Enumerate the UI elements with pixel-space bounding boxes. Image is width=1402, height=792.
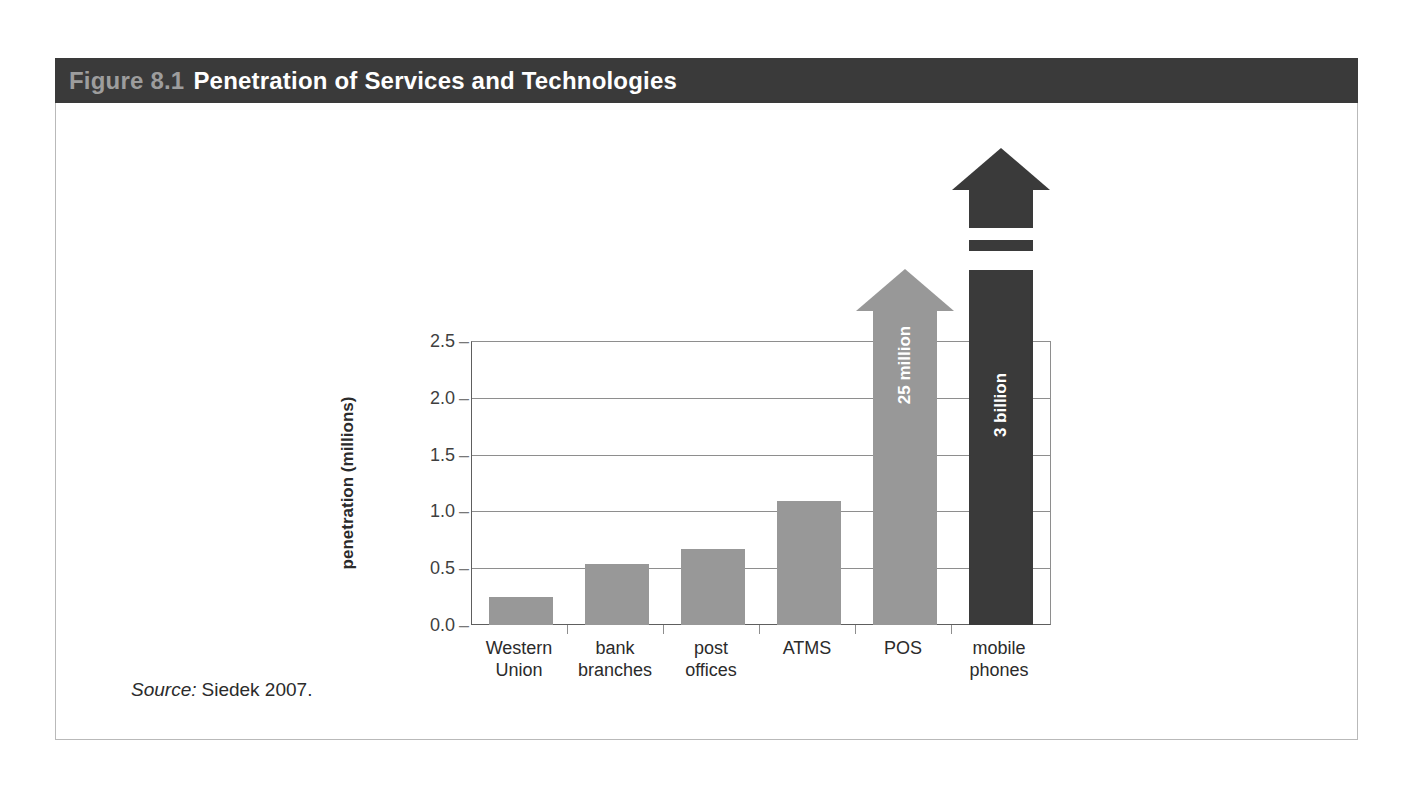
x-tick [759, 625, 760, 634]
arrow-up-icon [952, 148, 1050, 190]
bar-value-label-pos: 25 million [895, 326, 915, 404]
figure-page: penetration (millions) 2.5– 2.0– 1.5– 1.… [0, 0, 1402, 792]
y-axis-ticks: 2.5– 2.0– 1.5– 1.0– 0.5– 0.0– [406, 341, 468, 625]
bar-rect [777, 501, 841, 625]
y-axis-title: penetration (millions) [335, 341, 361, 625]
bar-rect [489, 597, 553, 625]
y-tick-label: 0.0 [430, 615, 455, 635]
arrow-stem-stub [969, 190, 1033, 228]
x-label-line: post [663, 637, 759, 659]
y-tick-label: 2.0 [430, 387, 455, 407]
axis-break-dash-icon [969, 240, 1033, 251]
bar-mobile-phones[interactable]: 3 billion [969, 270, 1033, 625]
y-tick-0.0: 0.0– [430, 615, 468, 636]
bar-pos[interactable]: 25 million [873, 311, 937, 625]
source-value: Siedek 2007. [201, 679, 312, 700]
x-label-line: ATMS [759, 637, 855, 659]
x-tick [663, 625, 664, 634]
x-label-post-offices: post offices [663, 637, 759, 681]
x-tick [951, 625, 952, 634]
x-label-mobile-phones: mobile phones [951, 637, 1047, 681]
x-axis-labels: Western Union bank branches post offices… [461, 637, 1061, 697]
x-label-line: Union [471, 659, 567, 681]
x-label-pos: POS [855, 637, 951, 659]
x-label-line: branches [567, 659, 663, 681]
bar-atms[interactable] [777, 501, 841, 625]
y-tick-dash-icon: – [459, 444, 468, 465]
x-tick [567, 625, 568, 634]
bar-rect: 3 billion [969, 270, 1033, 625]
y-tick-2.0: 2.0– [430, 387, 468, 408]
bar-post-offices[interactable] [681, 549, 745, 625]
y-tick-label: 2.5 [430, 331, 455, 351]
x-label-western-union: Western Union [471, 637, 567, 681]
x-label-atms: ATMS [759, 637, 855, 659]
y-axis-title-label: penetration (millions) [338, 397, 358, 570]
x-label-line: Western [471, 637, 567, 659]
figure-title: Penetration of Services and Technologies [193, 67, 677, 95]
y-tick-label: 1.5 [430, 444, 455, 464]
bar-bank-branches[interactable] [585, 564, 649, 625]
source-note: Source:Siedek 2007. [131, 679, 312, 701]
y-tick-label: 1.0 [430, 501, 455, 521]
figure-header: Figure 8.1 Penetration of Services and T… [55, 58, 1358, 103]
chart-area: penetration (millions) 2.5– 2.0– 1.5– 1.… [56, 59, 1359, 741]
x-tick [855, 625, 856, 634]
figure-number: Figure 8.1 [69, 67, 184, 95]
bar-rect: 25 million [873, 311, 937, 625]
y-tick-dash-icon: – [459, 501, 468, 522]
x-label-line: offices [663, 659, 759, 681]
x-label-line: bank [567, 637, 663, 659]
y-tick-0.5: 0.5– [430, 558, 468, 579]
bar-western-union[interactable] [489, 597, 553, 625]
y-tick-1.5: 1.5– [430, 444, 468, 465]
source-label: Source: [131, 679, 196, 700]
y-tick-2.5: 2.5– [430, 331, 468, 352]
x-label-bank-branches: bank branches [567, 637, 663, 681]
x-label-line: phones [951, 659, 1047, 681]
x-label-line: POS [855, 637, 951, 659]
bar-rect [681, 549, 745, 625]
figure-box: penetration (millions) 2.5– 2.0– 1.5– 1.… [55, 58, 1358, 740]
y-tick-dash-icon: – [459, 615, 468, 636]
y-tick-dash-icon: – [459, 558, 468, 579]
arrow-up-icon [856, 269, 954, 311]
bar-value-label-mobile: 3 billion [991, 373, 1011, 437]
bar-rect [585, 564, 649, 625]
x-axis-ticks [471, 625, 1051, 635]
y-tick-dash-icon: – [459, 387, 468, 408]
y-tick-dash-icon: – [459, 331, 468, 352]
y-tick-1.0: 1.0– [430, 501, 468, 522]
y-tick-label: 0.5 [430, 558, 455, 578]
x-label-line: mobile [951, 637, 1047, 659]
